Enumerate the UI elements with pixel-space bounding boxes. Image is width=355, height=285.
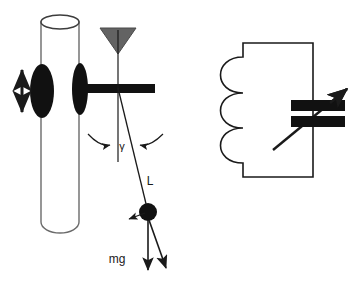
cylinder-body [41, 22, 79, 233]
figure-root: γ L mg [0, 0, 355, 285]
angle-arc-arrow-left [88, 134, 110, 145]
angle-arc-arrow-right [140, 134, 163, 145]
physics-diagram: γ L mg [0, 0, 355, 285]
left-disk-ellipse [30, 64, 54, 118]
weight-label: mg [109, 252, 126, 266]
variable-inductor-assembly [221, 43, 348, 177]
diagonal-force-arrow [149, 220, 166, 268]
length-label: L [147, 174, 154, 188]
horizontal-support-bar [78, 84, 155, 93]
angle-label: γ [119, 140, 125, 152]
vertical-cylinder [41, 15, 79, 233]
pendulum-assembly: γ L mg [22, 15, 166, 270]
ferrite-core-bar-lower [291, 116, 345, 127]
ferrite-core-bar-upper [291, 100, 345, 111]
pendulum-bob [139, 203, 157, 221]
cylinder-top-ellipse [41, 15, 79, 29]
